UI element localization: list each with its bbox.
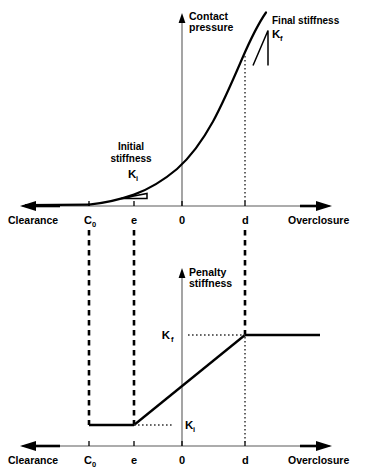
final-stiffness-symbol-sub: f <box>280 34 283 43</box>
contact-pressure-curve <box>89 13 266 205</box>
penalty-ramp-segment <box>134 335 245 425</box>
penalty-stiffness-label-line2: stiffness <box>189 277 232 289</box>
overclosure-label-top: Overclosure <box>288 214 349 226</box>
tick-label-d-top: d <box>242 214 249 226</box>
kf-value-label-sub: f <box>171 335 174 344</box>
initial-stiffness-label-line1: Initial <box>118 141 144 152</box>
ki-value-label-sub: i <box>193 425 195 434</box>
tick-label-c0-bottom: C <box>84 454 92 466</box>
contact-pressure-y-axis-arrow-icon <box>179 13 186 23</box>
initial-stiffness-label-line2: stiffness <box>110 153 152 164</box>
final-stiffness-label-line1: Final stiffness <box>272 15 340 26</box>
initial-stiffness-symbol-sub: i <box>136 174 138 183</box>
tick-label-d-bottom: d <box>242 454 249 466</box>
tick-label-e-bottom: e <box>131 454 137 466</box>
panel-penalty-stiffness: Penalty stiffness K f K i Clearance Over… <box>8 266 349 469</box>
tick-label-c0-sub-bottom: 0 <box>92 460 96 469</box>
tick-label-zero-bottom: 0 <box>179 454 185 466</box>
zero-pressure-segment <box>26 205 89 206</box>
tick-label-zero-top: 0 <box>179 214 185 226</box>
contact-penalty-diagram: Contact pressure Final stiffness K f Ini… <box>0 0 365 472</box>
kf-value-label: K <box>162 329 171 341</box>
tick-label-c0-sub-top: 0 <box>92 220 96 229</box>
penalty-stiffness-y-axis-arrow-icon <box>179 268 186 278</box>
final-stiffness-slope-triangle <box>253 31 268 66</box>
tick-label-c0-top: C <box>84 214 92 226</box>
clearance-label-top: Clearance <box>8 214 58 226</box>
overclosure-label-bottom: Overclosure <box>288 454 349 466</box>
panel-contact-pressure: Contact pressure Final stiffness K f Ini… <box>8 10 349 229</box>
contact-pressure-label-line2: pressure <box>189 21 234 33</box>
panel-connectors <box>89 230 245 425</box>
clearance-label-bottom: Clearance <box>8 454 58 466</box>
figure-root: Contact pressure Final stiffness K f Ini… <box>0 0 365 472</box>
tick-label-e-top: e <box>131 214 137 226</box>
